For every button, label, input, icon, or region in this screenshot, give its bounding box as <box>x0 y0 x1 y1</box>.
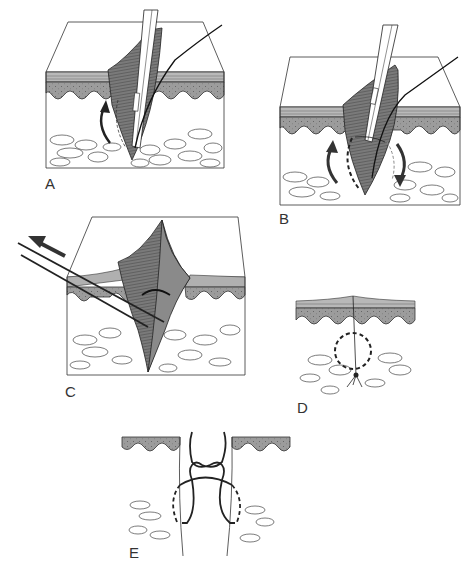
panel-label-b: B <box>279 210 289 227</box>
panel-label-d: D <box>297 399 308 416</box>
suture-technique-figure: A B <box>0 0 470 569</box>
panel-a: A <box>45 10 224 192</box>
panel-d: D <box>296 296 415 416</box>
panel-label-a: A <box>45 175 55 192</box>
panel-c: C <box>18 217 245 400</box>
panel-label-c: C <box>65 383 76 400</box>
panel-e: E <box>122 432 290 561</box>
panel-label-e: E <box>129 544 139 561</box>
panel-b: B <box>279 25 460 227</box>
